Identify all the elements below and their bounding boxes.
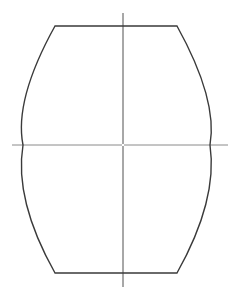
origin-gap [122,144,124,146]
barrel-diagram [0,0,235,299]
barrel-outline [21,26,211,273]
